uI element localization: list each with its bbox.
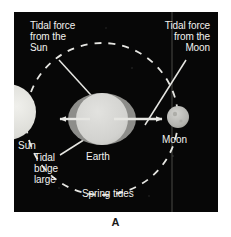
sun-body (14, 84, 36, 140)
label-tidal-bulge-large: Tidal bulge large (34, 152, 86, 185)
figure-caption: A (0, 216, 231, 228)
sky-panel: Tidal force from the Sun Tidal force fro… (14, 12, 218, 212)
moon-crater-1 (173, 112, 177, 116)
moon-crater-2 (179, 119, 182, 122)
tides-figure: Tidal force from the Sun Tidal force fro… (0, 0, 231, 237)
label-earth: Earth (86, 151, 110, 162)
label-moon: Moon (162, 134, 187, 145)
moon-body (167, 106, 189, 128)
label-tidal-force-sun: Tidal force from the Sun (30, 20, 110, 53)
label-sun: Sun (18, 140, 36, 151)
label-tidal-force-moon: Tidal force from the Moon (124, 20, 210, 53)
label-spring-tides: Spring tides (82, 188, 172, 199)
